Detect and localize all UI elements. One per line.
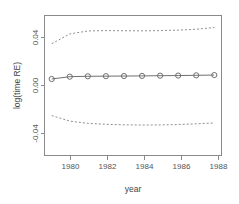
x-axis-ticks bbox=[71, 156, 219, 160]
x-tick-label: 1980 bbox=[62, 162, 80, 171]
y-tick-label: 0.04 bbox=[31, 29, 40, 45]
y-axis-tick-labels: 0.04 0.00 -0.04 bbox=[31, 29, 40, 142]
y-axis-ticks bbox=[41, 38, 45, 134]
x-tick-label: 1986 bbox=[173, 162, 191, 171]
y-axis-title: log(time RE) bbox=[12, 62, 22, 109]
series-line-upper-confidence-band bbox=[52, 28, 215, 44]
x-axis-title: year bbox=[125, 184, 142, 194]
chart-container: 0.04 0.00 -0.04 log(time RE) 1980 1982 1… bbox=[0, 0, 239, 204]
plot-frame bbox=[45, 16, 222, 156]
y-tick-label: 0.00 bbox=[31, 77, 40, 93]
line-chart: 0.04 0.00 -0.04 log(time RE) 1980 1982 1… bbox=[0, 0, 239, 204]
data-series-layer bbox=[49, 28, 217, 126]
x-tick-label: 1984 bbox=[136, 162, 154, 171]
x-axis-tick-labels: 1980 1982 1984 1986 1988 bbox=[62, 162, 228, 171]
series-line-estimate bbox=[52, 75, 215, 79]
y-tick-label: -0.04 bbox=[31, 124, 40, 143]
series-line-lower-confidence-band bbox=[52, 116, 215, 125]
x-tick-label: 1988 bbox=[210, 162, 228, 171]
x-tick-label: 1982 bbox=[99, 162, 117, 171]
